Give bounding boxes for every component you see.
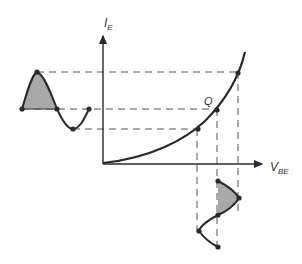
input-vbe-waveform [196, 178, 241, 249]
y-axis-label: IE [104, 16, 113, 30]
x-axis-label-sub: BE [278, 167, 289, 176]
y-axis-label-sub: E [107, 23, 112, 32]
ie-vbe-curve [103, 52, 245, 163]
q-point [214, 107, 219, 112]
x-axis-label: VBE [270, 160, 289, 174]
x-axis-label-main: V [270, 160, 278, 174]
transfer-characteristic-diagram [0, 0, 302, 264]
output-ie-waveform [19, 69, 91, 131]
q-point-label: Q [204, 95, 213, 107]
